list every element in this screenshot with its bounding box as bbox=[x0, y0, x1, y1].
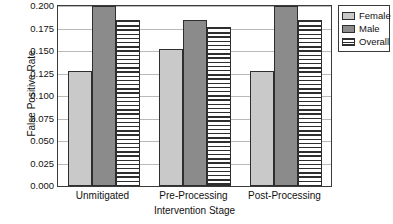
y-axis-tick-label: 0.125 bbox=[30, 67, 54, 78]
legend-item-male[interactable]: Male bbox=[342, 22, 385, 35]
bar-unmitigated-overall bbox=[116, 20, 140, 186]
legend-swatch-male-icon bbox=[342, 25, 355, 33]
y-axis-tick-mark bbox=[57, 51, 58, 52]
legend-swatch-overall-icon bbox=[342, 38, 355, 46]
legend-item-overall[interactable]: Overall bbox=[342, 35, 385, 48]
chart-title bbox=[60, 0, 330, 3]
y-axis-tick-label: 0.200 bbox=[30, 0, 54, 11]
bar-pre-processing-overall bbox=[207, 27, 231, 186]
bar-post-processing-female bbox=[250, 71, 274, 186]
y-axis-tick-mark bbox=[57, 164, 58, 165]
y-axis-tick-mark bbox=[57, 96, 58, 97]
legend-item-female[interactable]: Female bbox=[342, 9, 385, 22]
bar-pre-processing-female bbox=[159, 49, 183, 186]
y-axis-tick-label: 0.175 bbox=[30, 22, 54, 33]
y-axis-tick-label: 0.000 bbox=[30, 180, 54, 191]
y-axis-tick-mark bbox=[57, 74, 58, 75]
legend-label: Overall bbox=[359, 36, 389, 47]
legend-label: Female bbox=[359, 10, 391, 21]
bar-post-processing-overall bbox=[298, 20, 322, 186]
bar-pre-processing-male bbox=[183, 20, 207, 186]
x-axis-tick-labels: UnmitigatedPre-ProcessingPost-Processing bbox=[57, 190, 332, 204]
chart-legend: FemaleMaleOverall bbox=[338, 5, 390, 52]
y-axis-tick-label: 0.150 bbox=[30, 45, 54, 56]
bar-unmitigated-female bbox=[68, 71, 92, 186]
y-axis-tick-mark bbox=[57, 186, 58, 187]
legend-label: Male bbox=[359, 23, 380, 34]
y-axis-tick-label: 0.025 bbox=[30, 157, 54, 168]
y-axis-tick-mark bbox=[57, 141, 58, 142]
y-axis-tick-label: 0.100 bbox=[30, 90, 54, 101]
chart-figure: False Positive Rate 0.0000.0250.0500.075… bbox=[0, 0, 393, 224]
x-axis-label: Intervention Stage bbox=[57, 205, 332, 216]
x-axis-tick-label: Post-Processing bbox=[248, 190, 321, 201]
x-axis-tick-label: Unmitigated bbox=[76, 190, 129, 201]
y-axis-tick-labels: 0.0000.0250.0500.0750.1000.1250.1500.175… bbox=[16, 5, 54, 187]
y-axis-tick-mark bbox=[57, 119, 58, 120]
bar-post-processing-male bbox=[274, 6, 298, 186]
legend-swatch-female-icon bbox=[342, 12, 355, 20]
y-axis-tick-mark bbox=[57, 6, 58, 7]
x-axis-tick-label: Pre-Processing bbox=[159, 190, 227, 201]
y-axis-tick-label: 0.075 bbox=[30, 112, 54, 123]
y-axis-tick-mark bbox=[57, 29, 58, 30]
y-axis-tick-label: 0.050 bbox=[30, 135, 54, 146]
plot-area bbox=[57, 5, 332, 187]
bar-unmitigated-male bbox=[92, 6, 116, 186]
